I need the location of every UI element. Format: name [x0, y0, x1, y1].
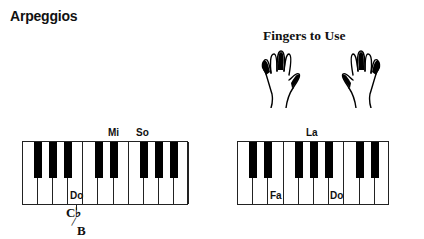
label-mi: Mi [108, 127, 119, 138]
label-so: So [136, 127, 149, 138]
black-key[interactable] [155, 142, 163, 178]
right-keyboard: Fa Do [237, 141, 389, 205]
label-la: La [306, 127, 318, 138]
label-do-right: Do [330, 190, 343, 201]
annotation-b: B [77, 223, 86, 239]
left-hand-icon [258, 50, 314, 108]
black-key[interactable] [64, 142, 72, 178]
black-key-so[interactable] [140, 142, 148, 178]
black-key[interactable] [49, 142, 57, 178]
right-hand-icon [328, 50, 384, 108]
label-do-left: Do [70, 190, 83, 201]
black-key[interactable] [325, 142, 333, 178]
black-key[interactable] [95, 142, 103, 178]
black-key-mi[interactable] [110, 142, 118, 178]
black-key[interactable] [249, 142, 257, 178]
black-key[interactable] [170, 142, 178, 178]
label-fa: Fa [270, 190, 282, 201]
page-title: Arpeggios [10, 8, 77, 24]
black-key[interactable] [34, 142, 42, 178]
left-keyboard: Do [22, 141, 188, 205]
black-key[interactable] [264, 142, 272, 178]
black-key[interactable] [356, 142, 364, 178]
black-key-la[interactable] [310, 142, 318, 178]
black-key[interactable] [295, 142, 303, 178]
fingers-title: Fingers to Use [263, 28, 345, 44]
black-key[interactable] [371, 142, 379, 178]
